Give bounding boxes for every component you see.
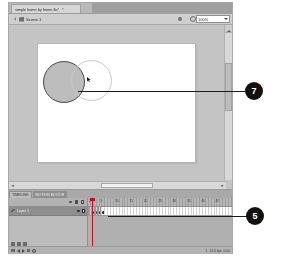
stage-canvas[interactable] [37,43,196,163]
arrow-cursor-icon [87,77,91,82]
callout-5-label: 5 [252,211,257,221]
frame-row[interactable] [88,207,232,216]
frame-ruler-cell[interactable] [229,198,232,206]
frame-cell[interactable] [229,207,232,215]
edit-scene-icon[interactable] [178,16,185,23]
outline-square-icon[interactable] [81,200,85,204]
callout-leader-line-7 [78,91,245,92]
timeline-status-bar: 1 12.0 fps 0.0s [9,246,232,254]
layer-visibility-toggle[interactable] [77,210,80,213]
frame-ruler[interactable]: 151015202530354045 [88,198,232,207]
elapsed-time-value: 0.0s [224,249,230,253]
callout-5: 5 [246,207,264,225]
scroll-left-icon[interactable]: ◄ [10,183,15,188]
layer-panel: Layer 1 [9,198,88,247]
document-tab-label: simple frame by frame.fla* [15,7,59,12]
document-tab-bar: simple frame by frame.fla* × [9,3,232,14]
previous-frame-icon[interactable] [17,249,20,253]
playhead-marker[interactable] [90,198,95,201]
layer-row[interactable]: Layer 1 [9,207,87,216]
timeline-tab-strip: TIMELINE MOTION EDITOR [9,190,232,198]
play-icon[interactable] [22,249,25,253]
current-frame-value: 1 [206,249,208,253]
layer-name-label: Layer 1 [17,209,75,213]
lock-icon[interactable] [75,200,78,204]
zoom-select[interactable]: 100% [196,15,230,23]
scene-label[interactable]: Scene 1 [26,17,41,22]
callout-7: 7 [245,82,263,100]
outline-circle-shape[interactable] [71,60,112,101]
edit-bar: Scene 1 100% [9,14,232,25]
tab-motion-editor-label: MOTION EDITOR [36,193,65,197]
back-arrow-icon[interactable] [11,16,17,22]
timeline-panel: TIMELINE MOTION EDITOR Layer 1 [9,189,232,254]
horizontal-scrollbar[interactable]: ◄ ► [9,181,226,189]
first-frame-icon[interactable] [11,249,15,253]
work-area[interactable]: ◄ ► [9,25,232,189]
horizontal-scroll-thumb[interactable] [101,183,153,188]
onion-skin-icon[interactable] [32,249,36,253]
callout-leader-line-5 [108,216,248,217]
layer-header [9,198,87,207]
pencil-icon [11,209,15,213]
layer-outline-toggle[interactable] [82,209,86,213]
scene-icon [19,17,24,22]
frame-rate-value[interactable]: 12.0 fps [210,249,222,253]
tab-timeline-label: TIMELINE [12,193,29,197]
tab-timeline[interactable]: TIMELINE [9,191,32,198]
tab-bar-filler [92,3,232,14]
scroll-right-icon[interactable]: ► [220,183,225,188]
chevron-down-icon[interactable] [224,18,228,20]
timeline-body: Layer 1 151015202530354045 [9,198,232,247]
edit-symbol-icon[interactable] [187,16,194,23]
playhead[interactable] [92,198,93,247]
callout-7-label: 7 [251,86,256,96]
vertical-scrollbar[interactable] [224,25,232,180]
eye-icon[interactable] [69,201,72,204]
close-icon[interactable]: × [62,7,64,11]
frame-panel[interactable]: 151015202530354045 [88,198,232,247]
tab-motion-editor[interactable]: MOTION EDITOR [33,191,68,198]
scroll-up-button[interactable] [225,25,232,33]
zoom-value: 100% [198,17,208,22]
vertical-scroll-thumb[interactable] [225,63,232,111]
next-frame-icon[interactable] [27,249,31,253]
document-tab[interactable]: simple frame by frame.fla* × [11,4,81,13]
